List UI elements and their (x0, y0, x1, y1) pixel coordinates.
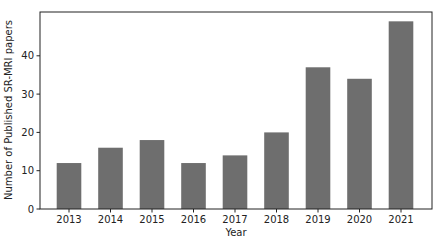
x-tick-label: 2018 (264, 214, 289, 225)
y-axis: 010203040 (21, 50, 40, 214)
x-axis: 201320142015201620172018201920202021 (56, 209, 413, 225)
x-tick-label: 2016 (181, 214, 206, 225)
x-axis-label: Year (224, 227, 247, 238)
x-tick-label: 2019 (305, 214, 330, 225)
x-tick-label: 2020 (347, 214, 372, 225)
x-tick-label: 2015 (139, 214, 164, 225)
bar-chart: 010203040 201320142015201620172018201920… (0, 0, 439, 246)
y-tick-label: 40 (21, 50, 34, 61)
bar-2015 (140, 140, 165, 209)
y-axis-label: Number of Published SR-MRI papers (3, 20, 14, 200)
bar-2016 (181, 163, 206, 209)
bar-2013 (57, 163, 82, 209)
bar-2017 (223, 155, 248, 209)
y-tick-label: 10 (21, 165, 34, 176)
bar-2020 (347, 79, 372, 209)
y-tick-label: 0 (28, 204, 34, 215)
bar-2018 (264, 132, 289, 209)
bar-2021 (389, 21, 414, 209)
x-tick-label: 2013 (56, 214, 81, 225)
y-tick-label: 30 (21, 89, 34, 100)
x-tick-label: 2021 (388, 214, 413, 225)
x-tick-label: 2014 (98, 214, 123, 225)
bars-group (57, 21, 414, 209)
bar-2014 (98, 148, 123, 209)
x-tick-label: 2017 (222, 214, 247, 225)
y-tick-label: 20 (21, 127, 34, 138)
bar-2019 (306, 67, 331, 209)
